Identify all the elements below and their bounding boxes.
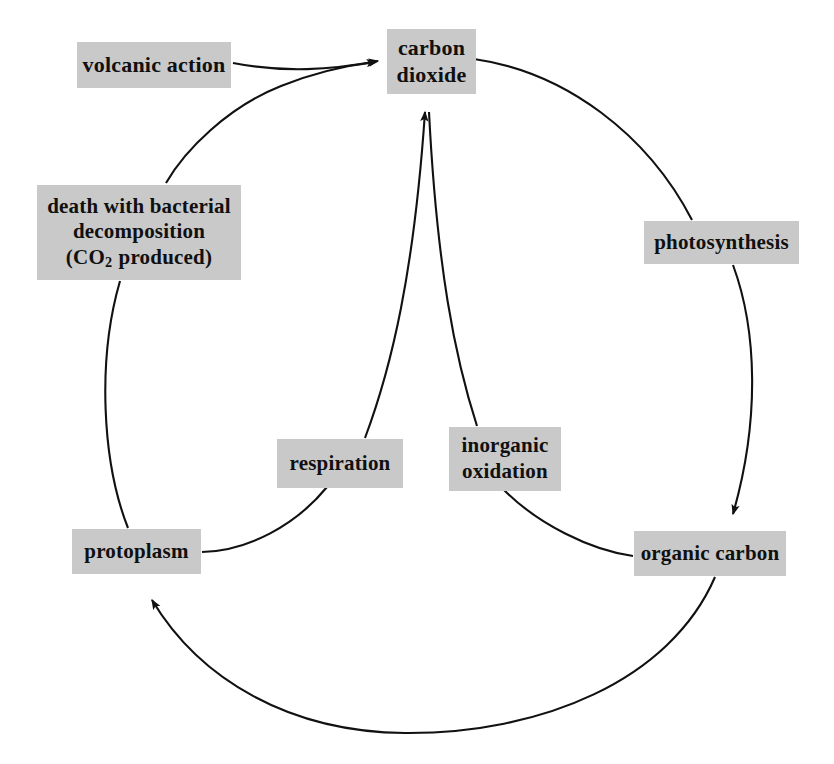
connector-arcs-layer (0, 0, 834, 764)
node-carbon-dioxide-line-1: carbon (398, 35, 465, 62)
node-organic-carbon-label: organic carbon (641, 541, 780, 567)
edge-carbon-dioxide-to-photosynthesis (474, 59, 692, 220)
edge-organic-carbon-to-protoplasm (152, 577, 715, 733)
edge-photosynthesis-to-organic-carbon (733, 265, 752, 514)
node-inorganic-oxidation-line-2: oxidation (462, 459, 548, 485)
edge-protoplasm-to-respiration (202, 487, 327, 552)
node-death-line-2: decomposition (73, 219, 205, 245)
co2-subscript: 2 (105, 254, 112, 270)
node-death-line-3-co2: (CO2produced) (66, 245, 212, 272)
node-carbon-dioxide[interactable]: carbon dioxide (387, 29, 476, 94)
carbon-cycle-diagram: carbon dioxide volcanic action death wit… (0, 0, 834, 764)
edge-inorganic-oxidation-to-carbon-dioxide (429, 112, 477, 426)
node-organic-carbon[interactable]: organic carbon (634, 531, 786, 576)
node-death-line-1: death with bacterial (47, 194, 231, 220)
edge-organic-carbon-to-inorganic-oxidation (504, 490, 633, 556)
co2-produced-text: produced) (119, 245, 213, 269)
node-protoplasm[interactable]: protoplasm (72, 529, 201, 574)
node-photosynthesis-label: photosynthesis (654, 230, 789, 256)
node-inorganic-oxidation[interactable]: inorganic oxidation (449, 427, 561, 491)
node-death-with-bacterial-decomposition[interactable]: death with bacterial decomposition (CO2p… (37, 185, 241, 280)
node-carbon-dioxide-line-2: dioxide (397, 62, 467, 89)
node-volcanic-action-label: volcanic action (83, 52, 226, 79)
co2-open-paren: (CO (66, 245, 105, 269)
node-photosynthesis[interactable]: photosynthesis (644, 221, 799, 264)
edge-protoplasm-to-death (105, 281, 128, 528)
node-inorganic-oxidation-line-1: inorganic (462, 433, 549, 459)
node-protoplasm-label: protoplasm (84, 539, 188, 565)
node-respiration[interactable]: respiration (277, 439, 403, 488)
node-respiration-label: respiration (290, 451, 391, 477)
edge-respiration-to-carbon-dioxide (365, 112, 425, 438)
node-volcanic-action[interactable]: volcanic action (77, 42, 231, 88)
